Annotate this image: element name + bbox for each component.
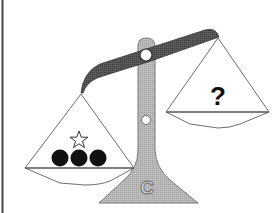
- ball-icon: [52, 150, 69, 167]
- joint-icon: [142, 116, 151, 125]
- ball-icon: [90, 150, 107, 167]
- question-mark: ?: [210, 81, 226, 111]
- right-pan: ?: [166, 38, 269, 128]
- left-pan: [25, 94, 134, 185]
- balance-scale-diagram: C ?: [0, 0, 280, 213]
- star-icon: [70, 131, 88, 148]
- base-label: C: [140, 177, 154, 198]
- ball-icon: [71, 150, 88, 167]
- pivot-icon: [140, 49, 152, 61]
